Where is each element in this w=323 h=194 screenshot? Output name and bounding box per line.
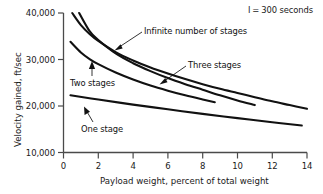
x-tick-label-14: 14 — [295, 161, 319, 171]
impulse-value: 300 seconds — [261, 5, 313, 15]
x-tick-label-2: 2 — [86, 161, 110, 171]
leader-line-infinite-stages — [119, 32, 143, 48]
x-tick-label-12: 12 — [260, 161, 284, 171]
curve-label-two-stages: Two stages — [70, 78, 115, 88]
y-tick-label-10000: 10,000 — [18, 148, 55, 158]
x-axis-ticks — [64, 153, 308, 159]
y-tick-label-30000: 30,000 — [18, 55, 55, 65]
x-tick-label-4: 4 — [121, 161, 145, 171]
impulse-equals: = — [252, 5, 259, 15]
curve-label-one-stage: One stage — [81, 124, 123, 134]
x-tick-label-0: 0 — [52, 161, 76, 171]
y-tick-label-40000: 40,000 — [18, 8, 55, 18]
curve-label-three-stages: Three stages — [188, 60, 241, 70]
x-tick-label-8: 8 — [191, 161, 215, 171]
specific-impulse-note: I=300 seconds — [248, 5, 313, 15]
y-axis-ticks — [58, 13, 64, 153]
y-axis-title: Velocity gained, ft/sec — [13, 52, 23, 147]
x-axis-title: Payload weight, percent of total weight — [100, 176, 269, 186]
x-tick-label-6: 6 — [156, 161, 180, 171]
curve-label-infinite-number-of-stages: Infinite number of stages — [144, 26, 247, 36]
annotation-leaders — [84, 32, 186, 122]
x-tick-label-10: 10 — [226, 161, 250, 171]
y-tick-label-20000: 20,000 — [18, 101, 55, 111]
impulse-symbol: I — [248, 5, 250, 15]
arrowhead-three-stages — [160, 78, 168, 85]
arrowhead-one-stage — [84, 107, 90, 116]
velocity-vs-payload-chart: 40,000 30,000 20,000 10,000 0 2 4 6 8 10… — [0, 0, 323, 194]
